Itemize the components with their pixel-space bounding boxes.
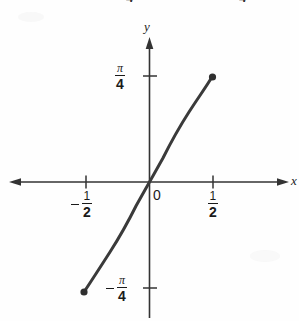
y-axis-label: y	[144, 20, 150, 33]
fraction-one-half: 1 2	[81, 190, 93, 219]
y-tick-label-pi-over-4: π 4	[114, 62, 126, 91]
curve-arctan	[84, 77, 212, 292]
fraction-numerator: π	[116, 274, 128, 287]
x-axis-label: x	[291, 174, 297, 187]
x-tick-label-one-half: 1 2	[207, 190, 219, 219]
signed-fraction: 1 2	[71, 190, 93, 219]
endpoint-dot-lower-left	[80, 288, 87, 295]
fraction-pi-over-4: π 4	[114, 62, 126, 91]
graph-figure: 4 4 y x 0	[0, 0, 299, 321]
x-axis-left-arrowhead	[9, 178, 21, 186]
fraction-numerator: π	[114, 62, 126, 75]
fraction-denominator: 2	[81, 204, 93, 219]
fraction-one-half: 1 2	[207, 190, 219, 219]
fraction-numerator: 1	[81, 190, 93, 203]
origin-label: 0	[153, 188, 161, 202]
minus-sign	[71, 204, 79, 205]
fraction-numerator: 1	[207, 190, 219, 203]
graph-canvas	[0, 0, 299, 321]
fraction-denominator: 4	[116, 288, 128, 303]
x-tick-label-neg-one-half: 1 2	[71, 190, 93, 219]
x-axis-right-arrowhead	[277, 178, 289, 186]
y-axis-top-arrowhead	[146, 37, 154, 49]
fraction-denominator: 2	[207, 204, 219, 219]
fraction-denominator: 4	[114, 76, 126, 91]
endpoint-dot-upper-right	[209, 73, 216, 80]
signed-fraction: π 4	[106, 274, 128, 303]
fraction-pi-over-4: π 4	[116, 274, 128, 303]
minus-sign	[106, 288, 114, 289]
y-tick-label-neg-pi-over-4: π 4	[106, 274, 128, 303]
